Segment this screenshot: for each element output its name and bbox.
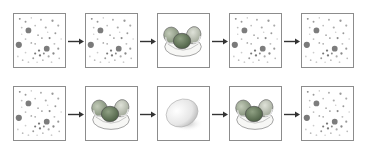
- dispersed-components-illustration: [230, 14, 281, 67]
- dispersed-components-illustration: [14, 14, 65, 67]
- panel-dispersed: Dispersed components: [13, 13, 66, 68]
- panel-dispersed: Dispersed components: [13, 86, 66, 141]
- panel-dispersed: Dispersed components: [85, 13, 138, 68]
- panel-complex: Assembled complex: [157, 13, 210, 68]
- panel-dispersed: Dispersed components: [301, 13, 354, 68]
- panel-complex: Assembled complex: [229, 86, 282, 141]
- dispersed-components-illustration: [14, 87, 65, 140]
- assembled-complex-illustration: [158, 14, 209, 67]
- arrow-right-icon: [212, 37, 228, 46]
- assembled-complex-illustration: [86, 87, 137, 140]
- panel-sealed: Sealed egg-shaped particle: [157, 86, 210, 141]
- panel-dispersed: Dispersed components: [301, 86, 354, 141]
- dispersed-components-illustration: [302, 87, 353, 140]
- arrow-right-icon: [284, 37, 300, 46]
- dispersed-components-illustration: [86, 14, 137, 67]
- panel-dispersed: Dispersed components: [229, 13, 282, 68]
- arrow-right-icon: [68, 37, 84, 46]
- arrow-right-icon: [284, 110, 300, 119]
- arrow-right-icon: [140, 37, 156, 46]
- dispersed-components-illustration: [302, 14, 353, 67]
- panel-complex: Assembled complex: [85, 86, 138, 141]
- sealed-egg-illustration: [158, 87, 209, 140]
- arrow-right-icon: [212, 110, 228, 119]
- assembled-complex-illustration: [230, 87, 281, 140]
- arrow-right-icon: [140, 110, 156, 119]
- arrow-right-icon: [68, 110, 84, 119]
